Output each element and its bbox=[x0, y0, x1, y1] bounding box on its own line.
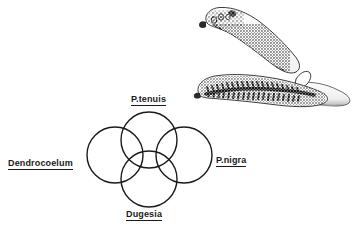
label-dendrocoelum: Dendrocoelum bbox=[8, 158, 73, 170]
figure-canvas: Dendrocoelum P.tenuis P.nigra Dugesia bbox=[0, 0, 364, 235]
label-pnigra: P.nigra bbox=[216, 155, 246, 167]
four-circle-venn-diagram bbox=[0, 0, 364, 235]
label-ptenuis: P.tenuis bbox=[131, 94, 166, 106]
label-dugesia: Dugesia bbox=[126, 209, 162, 221]
